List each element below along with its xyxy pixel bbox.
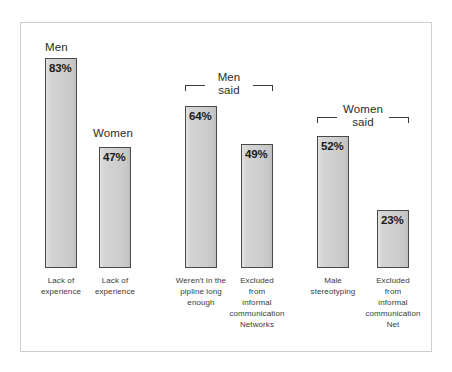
category-label-2-line-1: Lack of	[69, 275, 161, 286]
category-label-6: Excluded from informal communication Net	[347, 275, 439, 330]
category-label-6-line-3: informal	[347, 297, 439, 308]
series-label-men-1: Men	[45, 41, 68, 53]
bar-chart: Men 83% Lack of experience Women 47% Lac…	[0, 0, 452, 372]
bracket-label-men-line-1: Men	[185, 71, 273, 84]
category-label-2-line-2: experience	[69, 286, 161, 297]
category-label-4-line-4: communication	[211, 308, 303, 319]
bracket-label-men-line-2: said	[185, 84, 273, 97]
chart-frame: Men 83% Lack of experience Women 47% Lac…	[20, 22, 432, 352]
category-label-6-line-2: from	[347, 286, 439, 297]
bracket-label-women-said: Women said	[317, 103, 409, 129]
bar-value-1: 83%	[49, 62, 71, 74]
bar-value-5: 52%	[321, 140, 343, 152]
bracket-label-women-line-1: Women	[317, 103, 409, 116]
category-label-4-line-3: informal	[211, 297, 303, 308]
category-label-2: Lack of experience	[69, 275, 161, 297]
category-label-6-line-5: Net	[347, 319, 439, 330]
bar-value-4: 49%	[245, 148, 267, 160]
bar-1	[45, 58, 77, 268]
bracket-label-men-said: Men said	[185, 71, 273, 97]
bar-value-3: 64%	[189, 110, 211, 122]
bar-3	[185, 106, 217, 268]
bar-value-6: 23%	[381, 214, 403, 226]
bracket-label-women-line-2: said	[317, 116, 409, 129]
bar-value-2: 47%	[103, 151, 125, 163]
plot-area: Men 83% Lack of experience Women 47% Lac…	[21, 23, 431, 351]
category-label-6-line-1: Excluded	[347, 275, 439, 286]
bar-4	[241, 144, 273, 268]
category-label-4-line-5: Networks	[211, 319, 303, 330]
bar-2	[99, 147, 131, 268]
series-label-women-1: Women	[93, 127, 133, 139]
bar-5	[317, 136, 349, 268]
category-label-6-line-4: communication	[347, 308, 439, 319]
